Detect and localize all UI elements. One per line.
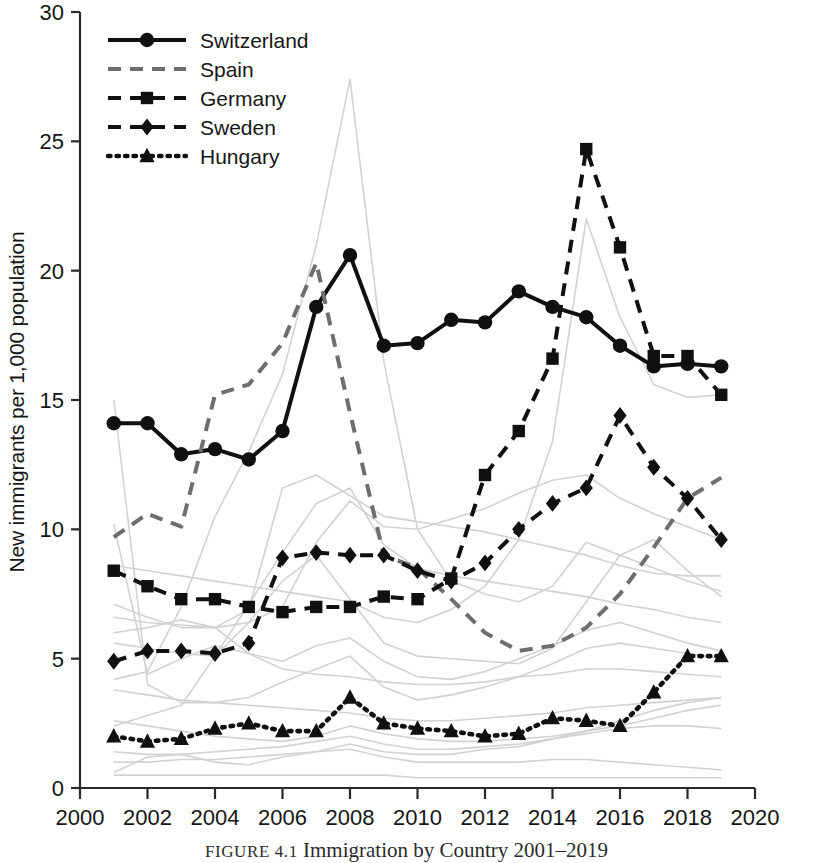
figure-number: FIGURE 4.1 bbox=[205, 842, 298, 861]
marker-circle bbox=[410, 336, 424, 350]
marker-diamond bbox=[377, 547, 390, 564]
axis-group bbox=[71, 12, 755, 799]
marker-square bbox=[141, 580, 153, 592]
figure-title: Immigration by Country 2001–2019 bbox=[303, 838, 608, 862]
legend-label: Switzerland bbox=[200, 29, 309, 52]
legend-label: Sweden bbox=[200, 116, 276, 139]
marker-circle bbox=[140, 33, 154, 47]
y-tick-label: 15 bbox=[40, 388, 64, 413]
y-tick-label: 25 bbox=[40, 129, 64, 154]
marker-circle bbox=[714, 359, 728, 373]
legend-label: Germany bbox=[200, 87, 287, 110]
marker-circle bbox=[545, 300, 559, 314]
marker-square bbox=[546, 352, 558, 364]
marker-triangle bbox=[646, 684, 661, 698]
marker-square bbox=[411, 593, 423, 605]
series-spain bbox=[114, 263, 722, 651]
marker-triangle bbox=[342, 689, 357, 703]
legend-item-germany: Germany bbox=[108, 87, 287, 110]
marker-circle bbox=[309, 300, 323, 314]
marker-circle bbox=[512, 284, 526, 298]
x-tick-label: 2020 bbox=[731, 805, 780, 830]
marker-circle bbox=[579, 310, 593, 324]
marker-diamond bbox=[276, 549, 289, 566]
x-tick-label: 2002 bbox=[123, 805, 172, 830]
figure-caption: FIGURE 4.1 Immigration by Country 2001–2… bbox=[0, 838, 813, 863]
x-tick-label: 2010 bbox=[393, 805, 442, 830]
x-tick-labels: 2000200220042006200820102012201420162018… bbox=[56, 805, 780, 830]
marker-square bbox=[681, 350, 693, 362]
marker-square bbox=[276, 606, 288, 618]
marker-circle bbox=[242, 452, 256, 466]
marker-square bbox=[310, 601, 322, 613]
marker-diamond bbox=[107, 653, 120, 670]
series-switzerland bbox=[107, 248, 729, 467]
marker-triangle bbox=[106, 728, 121, 742]
marker-square bbox=[175, 593, 187, 605]
y-tick-label: 5 bbox=[52, 647, 64, 672]
y-tick-label: 30 bbox=[40, 0, 64, 25]
series-line bbox=[114, 263, 722, 651]
marker-square bbox=[378, 590, 390, 602]
marker-diamond bbox=[343, 547, 356, 564]
marker-square bbox=[209, 593, 221, 605]
marker-square bbox=[344, 601, 356, 613]
marker-diamond bbox=[546, 495, 559, 512]
marker-circle bbox=[275, 424, 289, 438]
marker-circle bbox=[377, 338, 391, 352]
background-series-line bbox=[114, 775, 722, 778]
marker-triangle bbox=[241, 715, 256, 729]
marker-square bbox=[648, 350, 660, 362]
marker-square bbox=[108, 565, 120, 577]
legend-item-hungary: Hungary bbox=[108, 145, 280, 168]
y-tick-labels: 051015202530 bbox=[40, 0, 64, 801]
marker-square bbox=[614, 241, 626, 253]
series-hungary bbox=[106, 648, 729, 748]
marker-circle bbox=[613, 338, 627, 352]
y-tick-label: 10 bbox=[40, 517, 64, 542]
legend-item-switzerland: Switzerland bbox=[108, 29, 309, 52]
x-tick-label: 2014 bbox=[528, 805, 577, 830]
marker-square bbox=[479, 469, 491, 481]
marker-square bbox=[141, 92, 153, 104]
y-tick-label: 20 bbox=[40, 259, 64, 284]
series-germany bbox=[108, 143, 728, 618]
x-tick-label: 2000 bbox=[56, 805, 105, 830]
marker-square bbox=[715, 389, 727, 401]
x-tick-label: 2012 bbox=[461, 805, 510, 830]
marker-diamond bbox=[140, 119, 153, 136]
y-tick-label: 0 bbox=[52, 776, 64, 801]
background-series-line bbox=[114, 79, 722, 679]
chart-legend: SwitzerlandSpainGermanySwedenHungary bbox=[108, 29, 309, 168]
marker-circle bbox=[478, 315, 492, 329]
legend-item-sweden: Sweden bbox=[108, 116, 276, 139]
marker-square bbox=[580, 143, 592, 155]
x-tick-label: 2016 bbox=[596, 805, 645, 830]
x-tick-label: 2018 bbox=[663, 805, 712, 830]
marker-square bbox=[513, 425, 525, 437]
marker-circle bbox=[343, 248, 357, 262]
legend-label: Spain bbox=[200, 58, 254, 81]
marker-square bbox=[243, 601, 255, 613]
legend-label: Hungary bbox=[200, 145, 280, 168]
marker-circle bbox=[208, 442, 222, 456]
x-tick-label: 2008 bbox=[326, 805, 375, 830]
marker-circle bbox=[107, 416, 121, 430]
marker-circle bbox=[444, 313, 458, 327]
background-series-line bbox=[114, 488, 722, 726]
marker-diamond bbox=[512, 521, 525, 538]
marker-circle bbox=[174, 447, 188, 461]
legend-item-spain: Spain bbox=[108, 58, 254, 81]
x-tick-label: 2004 bbox=[191, 805, 240, 830]
marker-circle bbox=[140, 416, 154, 430]
x-tick-label: 2006 bbox=[258, 805, 307, 830]
series-group bbox=[106, 143, 729, 748]
